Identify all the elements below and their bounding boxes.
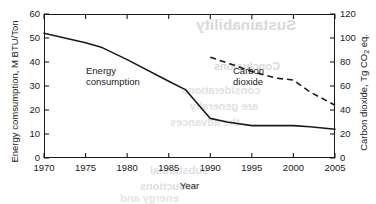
left-axis-title: Energy comsumption, M BTU/Ton [9,17,20,167]
left-tick-50: 50 [16,33,40,43]
x-tick-2005: 2005 [315,163,355,173]
x-tick-1995: 1995 [232,163,272,173]
x-tick-1990: 1990 [190,163,230,173]
right-axis-title-pre: Carbon dioxide, Tg CO [358,54,369,151]
annotation-carbon-dioxide: Carbon dioxide [233,66,264,88]
plot-svg [0,0,376,204]
left-tick-20: 20 [16,105,40,115]
right-axis-ticks [330,14,335,158]
right-axis-title: Carbon dioxide, Tg CO2 eq. [358,17,371,167]
series-carbon-dioxide-line [210,57,335,105]
right-axis-title-subscript: 2 [363,50,370,54]
left-tick-40: 40 [16,57,40,67]
right-axis-title-post: eq. [358,34,369,50]
chart-figure: Sustainability Conclusions consideration… [0,0,376,204]
x-tick-2000: 2000 [273,163,313,173]
left-tick-10: 10 [16,129,40,139]
left-tick-60: 60 [16,9,40,19]
x-tick-1975: 1975 [66,163,106,173]
x-tick-1970: 1970 [24,163,64,173]
x-tick-1985: 1985 [149,163,189,173]
x-axis-title: Year [44,180,335,191]
x-tick-1980: 1980 [107,163,147,173]
left-tick-30: 30 [16,81,40,91]
left-axis-ticks [44,14,49,158]
annotation-energy-consumption: Energy consumption [86,66,140,88]
annotation-energy-line-2: consumption [86,77,140,88]
annotation-co2-line-2: dioxide [233,77,264,88]
